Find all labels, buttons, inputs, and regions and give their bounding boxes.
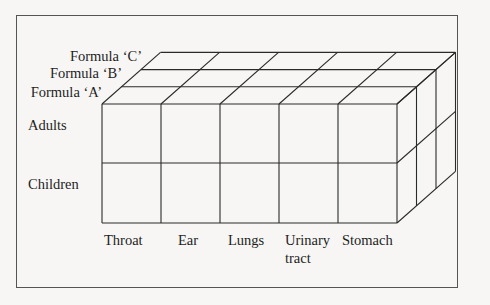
label-tract: tract bbox=[285, 251, 311, 266]
label-urinary: Urinary bbox=[285, 233, 330, 248]
label-children: Children bbox=[28, 177, 79, 192]
grid-line bbox=[397, 111, 456, 163]
label-formula-b: Formula ‘B’ bbox=[20, 66, 122, 81]
grid-line bbox=[397, 171, 456, 223]
label-adults: Adults bbox=[28, 118, 67, 133]
grid-line bbox=[161, 52, 220, 104]
label-stomach: Stomach bbox=[342, 233, 393, 248]
label-ear: Ear bbox=[178, 233, 198, 248]
label-throat: Throat bbox=[104, 233, 143, 248]
cube-grid bbox=[0, 0, 490, 305]
label-lungs: Lungs bbox=[228, 233, 264, 248]
grid-line bbox=[338, 52, 397, 104]
grid-line bbox=[220, 52, 279, 104]
label-formula-c: Formula ‘C’ bbox=[40, 49, 142, 64]
grid-line bbox=[397, 52, 456, 104]
grid-line bbox=[279, 52, 338, 104]
label-formula-a: Formula ‘A’ bbox=[0, 85, 102, 100]
